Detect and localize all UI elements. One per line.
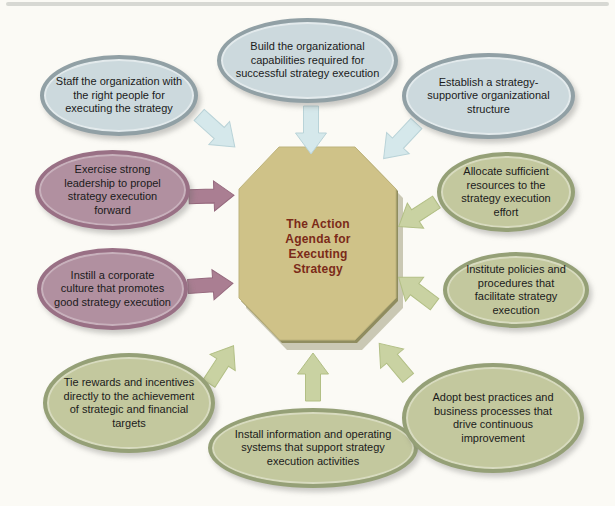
node-structure-label: Establish a strategy-supportive organiza… [419,76,559,117]
arrow-systems-icon [298,353,329,401]
node-structure: Establish a strategy-supportive organiza… [402,53,575,139]
center-title-line: Agenda for [250,232,386,247]
arrow-practices-icon [368,334,420,388]
center-title-line: Executing [250,247,386,262]
node-culture-label: Instill a corporate culture that promote… [54,269,172,310]
node-resources-label: Allocate sufficient resources to the str… [456,165,556,219]
node-systems-label: Install information and operating system… [233,428,393,469]
center-title: The Action Agenda for Executing Strategy [250,217,386,277]
node-practices: Adopt best practices and business proces… [402,363,584,473]
center-title-line: Strategy [250,262,386,277]
arrow-staff-icon [189,103,245,158]
arrow-leadership-icon [188,180,234,212]
node-capabilities: Build the organizational capabilities re… [217,18,398,103]
node-policies: Institute policies and procedures that f… [443,252,589,328]
node-capabilities-label: Build the organizational capabilities re… [229,40,387,81]
node-rewards-label: Tie rewards and incentives directly to t… [63,376,195,430]
node-resources: Allocate sufficient resources to the str… [437,152,575,232]
node-leadership-label: Exercise strong leadership to propel str… [57,163,169,217]
node-rewards: Tie rewards and incentives directly to t… [43,353,215,453]
node-systems: Install information and operating system… [208,408,418,488]
strategy-execution-diagram: Staff the organization with the right pe… [0,0,615,506]
arrow-culture-icon [187,268,234,301]
node-culture: Instill a corporate culture that promote… [37,248,188,330]
node-leadership: Exercise strong leadership to propel str… [35,150,190,230]
node-staff: Staff the organization with the right pe… [40,55,198,136]
node-staff-label: Staff the organization with the right pe… [53,75,185,116]
node-policies-label: Institute policies and procedures that f… [460,263,572,317]
node-practices-label: Adopt best practices and business proces… [426,391,561,445]
center-title-line: The Action [250,217,386,232]
